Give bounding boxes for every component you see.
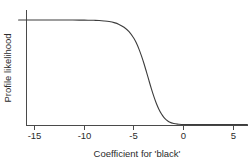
x-tick-label: -15	[28, 130, 42, 141]
profile-likelihood-curve	[19, 20, 248, 125]
y-axis-title: Profile likelihood	[2, 33, 13, 102]
x-tick-label: 5	[231, 130, 236, 141]
chart-canvas: -15 -10 -5 0 5 Coefficient for 'black' P…	[0, 0, 252, 165]
x-axis-title: Coefficient for 'black'	[94, 148, 181, 159]
x-axis-ticks	[35, 126, 234, 130]
x-axis-tick-labels: -15 -10 -5 0 5	[28, 130, 237, 141]
profile-likelihood-figure: -15 -10 -5 0 5 Coefficient for 'black' P…	[0, 0, 252, 165]
x-tick-label: 0	[181, 130, 186, 141]
x-tick-label: -5	[129, 130, 137, 141]
x-tick-label: -10	[78, 130, 92, 141]
